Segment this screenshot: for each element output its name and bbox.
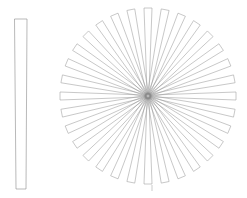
radial-strip-diagram	[0, 0, 247, 198]
hub-center-mark	[145, 93, 152, 100]
rosette-hub	[145, 93, 152, 100]
reference-strip-outline	[15, 19, 28, 189]
figure-canvas	[0, 0, 247, 198]
reference-strip	[15, 19, 28, 189]
